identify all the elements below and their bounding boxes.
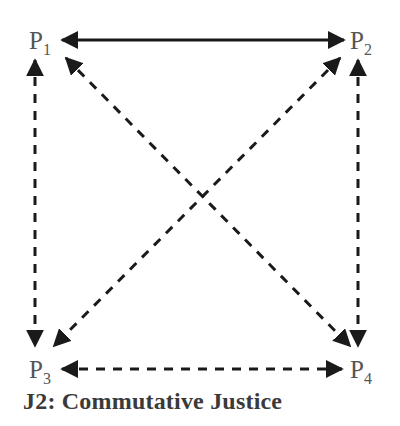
diagram-caption: J2: Commutative Justice [23,388,282,415]
node-p3-base: P [29,356,43,383]
node-p2: P2 [350,28,372,58]
edge-p1-p4 [66,58,350,346]
node-p3-sub: 3 [43,370,51,387]
commutative-justice-diagram [0,0,400,426]
node-p4: P4 [350,357,372,387]
node-p1-base: P [29,27,43,54]
node-p3: P3 [29,357,51,387]
node-p2-sub: 2 [364,41,372,58]
edge-p2-p3 [54,58,340,346]
node-p1-sub: 1 [43,41,51,58]
node-p2-base: P [350,27,364,54]
node-p4-sub: 4 [364,370,372,387]
node-p4-base: P [350,356,364,383]
node-p1: P1 [29,28,51,58]
